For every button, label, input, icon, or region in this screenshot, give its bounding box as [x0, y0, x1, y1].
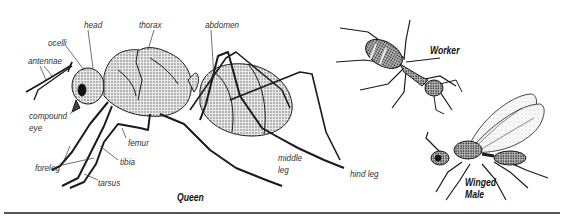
caption-winged-male-2: Male — [465, 189, 484, 201]
worker-ant-drawing — [336, 20, 462, 114]
caption-queen: Queen — [177, 192, 204, 204]
caption-worker: Worker — [430, 45, 459, 57]
label-head: head — [84, 19, 102, 30]
caption-winged-male-1: Winged — [465, 177, 496, 189]
label-femur: femur — [128, 137, 149, 148]
label-tibia: tibia — [120, 156, 135, 167]
label-foreleg: foreleg — [35, 162, 60, 173]
label-tarsus: tarsus — [98, 177, 120, 188]
label-thorax: thorax — [139, 19, 162, 30]
label-middle-leg-2: leg — [278, 164, 289, 175]
queen-ant-drawing — [26, 48, 344, 188]
label-abdomen: abdomen — [205, 19, 239, 30]
label-antennae: antennae — [28, 55, 62, 66]
label-middle-leg-1: middle — [278, 152, 302, 163]
label-ocelli: ocelli — [48, 37, 67, 48]
label-compound-eye-2: eye — [29, 122, 42, 133]
ant-anatomy-figure: head ocelli thorax abdomen antennae comp… — [0, 0, 562, 217]
label-hind-leg: hind leg — [350, 168, 379, 179]
label-compound-eye-1: compound — [29, 110, 67, 121]
bottom-divider-rule — [4, 212, 560, 214]
